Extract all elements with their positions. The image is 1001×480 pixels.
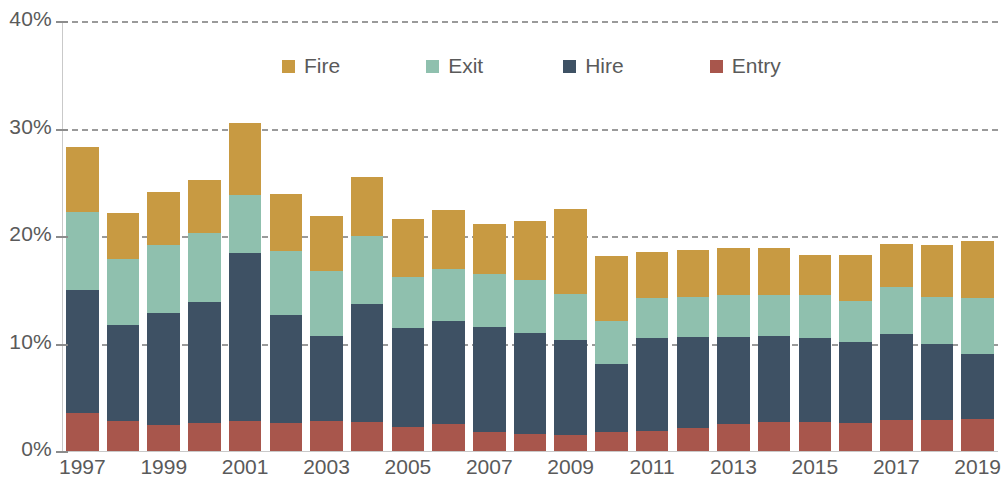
bar-segment-hire-2001[interactable] — [229, 253, 262, 421]
bar-segment-hire-2012[interactable] — [677, 337, 710, 428]
bar-2016[interactable] — [839, 255, 872, 451]
bar-2008[interactable] — [514, 221, 547, 451]
bar-segment-exit-2010[interactable] — [595, 321, 628, 364]
bar-segment-fire-2000[interactable] — [188, 180, 221, 233]
bar-segment-entry-2004[interactable] — [351, 422, 384, 451]
legend-item-exit[interactable]: Exit — [426, 54, 483, 78]
bar-segment-fire-2019[interactable] — [961, 241, 994, 298]
bar-segment-entry-2006[interactable] — [432, 424, 465, 451]
bar-segment-entry-2003[interactable] — [310, 421, 343, 451]
bar-segment-entry-2000[interactable] — [188, 423, 221, 451]
bar-segment-entry-2019[interactable] — [961, 419, 994, 451]
bar-segment-hire-2011[interactable] — [636, 338, 669, 430]
bar-2010[interactable] — [595, 256, 628, 451]
bar-2011[interactable] — [636, 252, 669, 451]
bar-segment-entry-1998[interactable] — [107, 421, 140, 451]
bar-segment-hire-2004[interactable] — [351, 304, 384, 422]
bar-segment-exit-2018[interactable] — [921, 297, 954, 343]
bar-segment-fire-2012[interactable] — [677, 250, 710, 297]
bar-segment-hire-2016[interactable] — [839, 342, 872, 423]
bar-segment-exit-2017[interactable] — [880, 287, 913, 334]
bar-segment-entry-2013[interactable] — [717, 424, 750, 451]
bar-segment-exit-2014[interactable] — [758, 295, 791, 336]
bar-2018[interactable] — [921, 245, 954, 451]
bar-segment-entry-2005[interactable] — [392, 427, 425, 451]
bar-segment-fire-1998[interactable] — [107, 213, 140, 258]
bar-segment-hire-2018[interactable] — [921, 344, 954, 420]
bar-segment-hire-1997[interactable] — [66, 290, 99, 414]
bar-1997[interactable] — [66, 147, 99, 451]
bar-segment-hire-2017[interactable] — [880, 334, 913, 420]
bar-segment-fire-2010[interactable] — [595, 256, 628, 321]
bar-segment-fire-2018[interactable] — [921, 245, 954, 298]
bar-segment-fire-2001[interactable] — [229, 123, 262, 195]
bar-2003[interactable] — [310, 216, 343, 451]
bar-segment-exit-2009[interactable] — [554, 294, 587, 340]
bar-segment-fire-2014[interactable] — [758, 248, 791, 295]
bar-segment-fire-2011[interactable] — [636, 252, 669, 298]
bar-2000[interactable] — [188, 180, 221, 451]
bar-2001[interactable] — [229, 123, 262, 451]
bar-segment-exit-2019[interactable] — [961, 298, 994, 354]
bar-segment-hire-2019[interactable] — [961, 354, 994, 419]
bar-2014[interactable] — [758, 248, 791, 451]
bar-segment-entry-2015[interactable] — [799, 422, 832, 451]
bar-segment-entry-2016[interactable] — [839, 423, 872, 451]
bar-segment-hire-1999[interactable] — [147, 313, 180, 425]
bar-segment-fire-2016[interactable] — [839, 255, 872, 300]
bar-segment-exit-1997[interactable] — [66, 212, 99, 289]
bar-segment-entry-2014[interactable] — [758, 422, 791, 451]
bar-segment-fire-1997[interactable] — [66, 147, 99, 213]
bar-segment-exit-2013[interactable] — [717, 295, 750, 337]
bar-2009[interactable] — [554, 209, 587, 451]
bar-segment-exit-2003[interactable] — [310, 271, 343, 336]
bar-segment-fire-2006[interactable] — [432, 210, 465, 269]
bar-segment-hire-2013[interactable] — [717, 337, 750, 424]
bar-2017[interactable] — [880, 244, 913, 451]
bar-segment-fire-2017[interactable] — [880, 244, 913, 287]
bar-segment-exit-2012[interactable] — [677, 297, 710, 337]
bar-segment-entry-2008[interactable] — [514, 434, 547, 451]
bar-segment-fire-1999[interactable] — [147, 192, 180, 245]
bar-segment-fire-2007[interactable] — [473, 224, 506, 273]
bar-segment-hire-2003[interactable] — [310, 336, 343, 421]
bar-segment-hire-1998[interactable] — [107, 325, 140, 421]
bar-segment-exit-2005[interactable] — [392, 277, 425, 329]
bar-segment-entry-2018[interactable] — [921, 420, 954, 451]
bar-segment-entry-2009[interactable] — [554, 435, 587, 451]
bar-segment-entry-2002[interactable] — [270, 423, 303, 451]
bar-segment-exit-2011[interactable] — [636, 298, 669, 338]
bar-1998[interactable] — [107, 213, 140, 451]
bar-segment-hire-2010[interactable] — [595, 364, 628, 432]
bar-2019[interactable] — [961, 241, 994, 451]
bar-segment-fire-2009[interactable] — [554, 209, 587, 294]
bar-segment-hire-2015[interactable] — [799, 338, 832, 422]
bar-segment-fire-2002[interactable] — [270, 194, 303, 251]
bar-segment-entry-2001[interactable] — [229, 421, 262, 451]
bar-segment-hire-2008[interactable] — [514, 333, 547, 434]
bar-segment-fire-2013[interactable] — [717, 248, 750, 295]
bar-segment-exit-2016[interactable] — [839, 301, 872, 343]
bar-segment-exit-2004[interactable] — [351, 236, 384, 304]
bar-segment-hire-2006[interactable] — [432, 321, 465, 424]
bar-2007[interactable] — [473, 224, 506, 451]
bar-segment-entry-1997[interactable] — [66, 413, 99, 451]
bar-2002[interactable] — [270, 194, 303, 451]
bar-segment-hire-2005[interactable] — [392, 328, 425, 427]
bar-segment-exit-2000[interactable] — [188, 233, 221, 302]
legend-item-fire[interactable]: Fire — [282, 54, 340, 78]
bar-2012[interactable] — [677, 250, 710, 451]
bar-segment-entry-2011[interactable] — [636, 431, 669, 451]
bar-2013[interactable] — [717, 248, 750, 451]
bar-segment-fire-2004[interactable] — [351, 177, 384, 236]
bar-segment-hire-2000[interactable] — [188, 302, 221, 423]
bar-segment-exit-2015[interactable] — [799, 295, 832, 338]
legend-item-hire[interactable]: Hire — [563, 54, 624, 78]
bar-segment-hire-2007[interactable] — [473, 327, 506, 431]
bar-2004[interactable] — [351, 177, 384, 451]
bar-segment-fire-2015[interactable] — [799, 255, 832, 295]
bar-segment-exit-2002[interactable] — [270, 251, 303, 314]
bar-segment-entry-1999[interactable] — [147, 425, 180, 451]
bar-segment-exit-2007[interactable] — [473, 274, 506, 328]
bar-segment-exit-2006[interactable] — [432, 269, 465, 321]
